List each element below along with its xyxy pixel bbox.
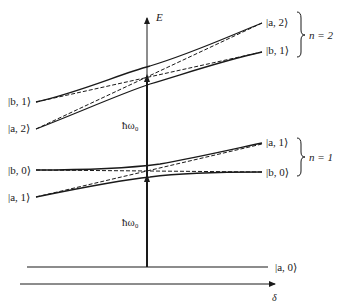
energy-level-diagram: E δ ħω₀ ħω₀ |b, 1⟩ |a, 2⟩ |b, 0⟩ |a, 1⟩ … [0, 0, 337, 308]
energy-axis [144, 18, 150, 267]
n1-brace [297, 138, 305, 176]
manifold-label-n2: n = 2 [309, 30, 333, 41]
label-right-a2: |a, 2⟩ [266, 17, 288, 28]
photon-energy-label-lower: ħω₀ [122, 217, 139, 228]
detuning-axis-label: δ [272, 293, 277, 303]
label-left-a2: |a, 2⟩ [8, 123, 30, 134]
label-right-b0: |b, 0⟩ [266, 167, 289, 178]
n2-manifold [36, 23, 262, 129]
label-left-a1: |a, 1⟩ [8, 192, 30, 203]
photon-energy-label-upper: ħω₀ [122, 120, 139, 131]
label-right-b1: |b, 1⟩ [266, 45, 289, 56]
label-right-a1: |a, 1⟩ [266, 137, 288, 148]
label-left-b1: |b, 1⟩ [8, 96, 31, 107]
manifold-label-n1: n = 1 [309, 152, 333, 163]
n2-brace [297, 12, 305, 57]
label-left-b0: |b, 0⟩ [8, 165, 31, 176]
label-right-a0: |a, 0⟩ [275, 262, 297, 273]
n1-manifold [36, 143, 262, 197]
energy-axis-label: E [156, 12, 163, 23]
